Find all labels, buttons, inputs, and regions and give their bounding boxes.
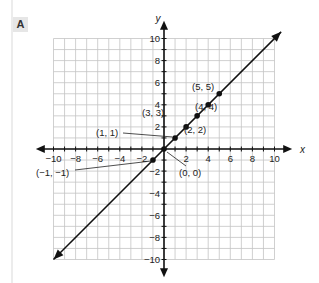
svg-text:(2, 2): (2, 2)	[184, 124, 206, 135]
svg-text:10: 10	[149, 33, 160, 44]
svg-text:−6: −6	[92, 153, 103, 164]
svg-text:−8: −8	[149, 232, 160, 243]
svg-text:(5, 5): (5, 5)	[192, 81, 214, 92]
point-labels: (−1, −1)(0, 0)(1, 1)(2, 2)(3, 3)(4, 4)(5…	[36, 81, 217, 178]
svg-text:4: 4	[206, 153, 211, 164]
svg-text:−6: −6	[149, 210, 160, 221]
svg-text:−4: −4	[149, 188, 160, 199]
svg-text:(1, 1): (1, 1)	[96, 127, 118, 138]
svg-text:6: 6	[228, 153, 233, 164]
svg-text:y: y	[155, 13, 162, 24]
svg-text:(4, 4): (4, 4)	[195, 101, 217, 112]
svg-text:−2: −2	[149, 166, 160, 177]
svg-text:(3, 3): (3, 3)	[142, 107, 164, 118]
svg-text:−8: −8	[70, 153, 81, 164]
svg-text:−10: −10	[144, 254, 160, 265]
svg-text:8: 8	[250, 153, 255, 164]
svg-text:−10: −10	[45, 153, 61, 164]
svg-text:(−1, −1): (−1, −1)	[36, 167, 69, 178]
svg-text:6: 6	[155, 77, 160, 88]
svg-text:−4: −4	[114, 153, 125, 164]
svg-text:2: 2	[155, 121, 160, 132]
svg-text:x: x	[299, 144, 306, 155]
line-y-equals-x	[54, 32, 282, 260]
svg-text:10: 10	[269, 153, 280, 164]
svg-text:2: 2	[183, 153, 188, 164]
coordinate-plane-chart: yx −10−8−6−4−2246810108642−2−4−6−8−10 (−…	[0, 0, 319, 283]
svg-text:(0, 0): (0, 0)	[179, 167, 201, 178]
svg-text:8: 8	[155, 55, 160, 66]
